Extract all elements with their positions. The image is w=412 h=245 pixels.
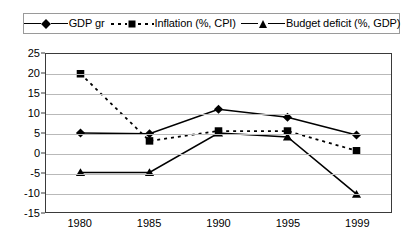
- y-axis-tick-label: 0: [4, 148, 40, 159]
- gridline: [46, 94, 391, 95]
- legend-line-right: [51, 23, 68, 25]
- legend-line-left: [24, 23, 41, 25]
- x-axis-tick-label: 1995: [276, 218, 300, 229]
- gridline: [46, 154, 391, 155]
- y-axis-tick-label: 10: [4, 108, 40, 119]
- y-axis-tick-mark: [41, 193, 45, 194]
- x-axis-labels: 19801985199019951999: [45, 218, 392, 232]
- y-axis-tick-mark: [41, 213, 45, 214]
- diamond-marker-icon: [76, 128, 85, 137]
- legend-sample-gdp-gr: [23, 18, 69, 30]
- x-axis-tick-label: 1980: [67, 218, 91, 229]
- y-axis-tick-label: 5: [4, 128, 40, 139]
- legend-sample-inflation: [109, 18, 155, 30]
- y-axis-tick-mark: [41, 113, 45, 114]
- legend-entry-budget-deficit: Budget deficit (%, GDP): [238, 14, 402, 33]
- legend-label-gdp-gr: GDP gr: [69, 18, 105, 29]
- series-layer: [46, 54, 391, 212]
- legend-label-budget-deficit: Budget deficit (%, GDP): [286, 18, 400, 29]
- y-axis-labels: 2520151050-5-10-15: [0, 53, 40, 213]
- legend-sample-budget-deficit: [240, 18, 286, 30]
- chart-legend: GDP gr Inflation (%, CPI) Budget deficit…: [23, 13, 400, 34]
- square-marker-icon: [146, 137, 154, 145]
- legend-entry-gdp-gr: GDP gr: [21, 14, 107, 33]
- x-axis-tick-label: 1985: [137, 218, 161, 229]
- gridline: [46, 134, 391, 135]
- line-chart: GDP gr Inflation (%, CPI) Budget deficit…: [0, 0, 412, 245]
- legend-line-right: [268, 23, 285, 25]
- plot-area: [45, 53, 392, 213]
- square-marker-icon: [128, 20, 135, 27]
- series-line-triangle: [81, 133, 357, 194]
- y-axis-tick-label: -15: [4, 208, 40, 219]
- y-axis-tick-label: 20: [4, 68, 40, 79]
- y-axis-tick-label: 25: [4, 48, 40, 59]
- legend-dotted-line-right: [138, 23, 154, 25]
- gridline: [46, 74, 391, 75]
- y-axis-tick-mark: [41, 133, 45, 134]
- triangle-marker-icon: [259, 20, 267, 28]
- diamond-marker-icon: [214, 105, 223, 114]
- x-axis-tick-label: 1990: [206, 218, 230, 229]
- y-axis-tick-mark: [41, 173, 45, 174]
- legend-label-inflation: Inflation (%, CPI): [155, 18, 236, 29]
- y-axis-tick-mark: [41, 53, 45, 54]
- x-axis-tick-label: 1999: [345, 218, 369, 229]
- legend-line-left: [241, 23, 258, 25]
- y-axis-tick-mark: [41, 153, 45, 154]
- legend-entry-inflation: Inflation (%, CPI): [107, 14, 238, 33]
- y-axis-tick-label: -5: [4, 168, 40, 179]
- gridline: [46, 114, 391, 115]
- legend-dotted-line-left: [111, 23, 127, 25]
- y-axis-tick-label: -10: [4, 188, 40, 199]
- y-axis-tick-mark: [41, 93, 45, 94]
- gridline: [46, 174, 391, 175]
- diamond-marker-icon: [41, 19, 51, 29]
- y-axis-tick-label: 15: [4, 88, 40, 99]
- y-axis-tick-mark: [41, 73, 45, 74]
- gridline: [46, 194, 391, 195]
